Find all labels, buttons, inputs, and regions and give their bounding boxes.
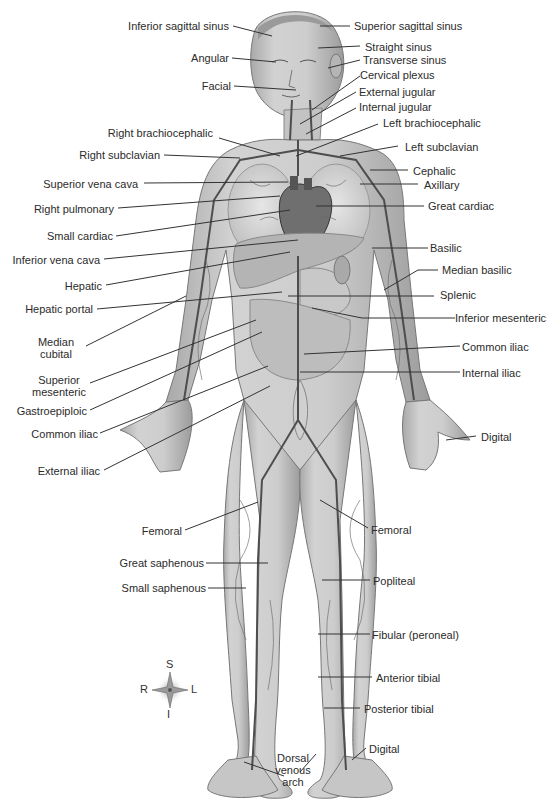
label-fibular-peroneal: Fibular (peroneal) bbox=[372, 629, 459, 641]
label-small-cardiac: Small cardiac bbox=[47, 230, 113, 242]
orientation-compass: S I R L bbox=[140, 660, 200, 720]
label-external-jugular: External jugular bbox=[359, 86, 435, 98]
label-right-pulmonary: Right pulmonary bbox=[34, 203, 114, 215]
label-small-saphenous: Small saphenous bbox=[122, 582, 206, 594]
compass-superior: S bbox=[166, 658, 173, 670]
label-common-iliac-left: Common iliac bbox=[31, 428, 98, 440]
compass-inferior: I bbox=[167, 708, 170, 720]
head bbox=[251, 12, 344, 118]
label-digital-hand: Digital bbox=[481, 431, 512, 443]
label-straight-sinus: Straight sinus bbox=[365, 41, 432, 53]
label-inferior-vena-cava: Inferior vena cava bbox=[13, 254, 100, 266]
label-left-brachiocephalic: Left brachiocephalic bbox=[383, 117, 481, 129]
label-cephalic: Cephalic bbox=[413, 165, 456, 177]
label-common-iliac-right: Common iliac bbox=[462, 341, 529, 353]
label-hepatic-portal: Hepatic portal bbox=[25, 303, 93, 315]
label-dorsal-venous-arch: Dorsal venous arch bbox=[268, 752, 318, 788]
compass-right: R bbox=[140, 683, 148, 695]
label-splenic: Splenic bbox=[440, 289, 476, 301]
label-superior-mesenteric: Superior mesenteric bbox=[28, 374, 90, 398]
vein-diagram: Inferior sagittal sinus Angular Facial R… bbox=[0, 0, 559, 802]
label-left-subclavian: Left subclavian bbox=[405, 141, 478, 153]
label-popliteal: Popliteal bbox=[373, 575, 415, 587]
label-digital-foot: Digital bbox=[369, 743, 400, 755]
label-great-saphenous: Great saphenous bbox=[120, 557, 204, 569]
label-femoral-left: Femoral bbox=[142, 525, 182, 537]
label-angular: Angular bbox=[191, 52, 229, 64]
label-hepatic: Hepatic bbox=[65, 280, 102, 292]
label-cervical-plexus: Cervical plexus bbox=[360, 69, 435, 81]
label-inferior-mesenteric: Inferior mesenteric bbox=[455, 312, 546, 324]
label-posterior-tibial: Posterior tibial bbox=[364, 703, 434, 715]
label-facial: Facial bbox=[202, 80, 231, 92]
label-internal-jugular: Internal jugular bbox=[359, 101, 432, 113]
label-internal-iliac: Internal iliac bbox=[462, 367, 521, 379]
left-hand bbox=[403, 400, 470, 470]
label-median-basilic: Median basilic bbox=[442, 264, 512, 276]
label-axillary: Axillary bbox=[424, 179, 459, 191]
label-external-iliac: External iliac bbox=[38, 465, 100, 477]
compass-left: L bbox=[191, 683, 197, 695]
label-superior-sagittal-sinus: Superior sagittal sinus bbox=[354, 20, 462, 32]
label-transverse-sinus: Transverse sinus bbox=[363, 54, 446, 66]
label-femoral-right: Femoral bbox=[371, 524, 411, 536]
label-basilic: Basilic bbox=[430, 242, 462, 254]
label-right-brachiocephalic: Right brachiocephalic bbox=[108, 127, 213, 139]
label-superior-vena-cava: Superior vena cava bbox=[43, 178, 138, 190]
label-great-cardiac: Great cardiac bbox=[428, 200, 494, 212]
label-right-subclavian: Right subclavian bbox=[79, 149, 160, 161]
label-anterior-tibial: Anterior tibial bbox=[376, 672, 440, 684]
label-median-cubital: Median cubital bbox=[30, 336, 82, 360]
label-gastroepiploic: Gastroepiploic bbox=[17, 405, 87, 417]
label-inferior-sagittal-sinus: Inferior sagittal sinus bbox=[128, 20, 229, 32]
